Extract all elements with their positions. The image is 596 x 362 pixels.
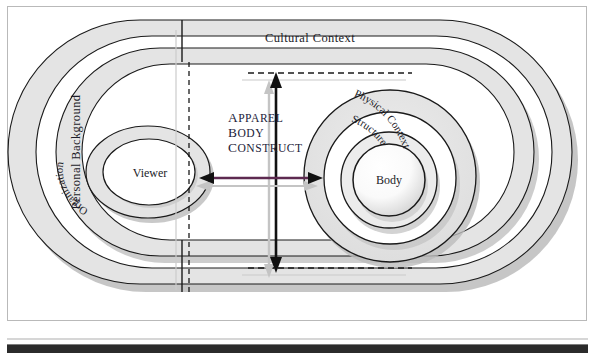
abc-line-1: APPAREL	[228, 110, 283, 125]
abc-line-2: BODY	[228, 125, 264, 140]
abc-line-3: CONSTRUCT	[228, 140, 303, 155]
label-cultural-context: Cultural Context	[265, 31, 355, 45]
apparel-body-construct-diagram: Cultural Context Personal Background Org…	[0, 0, 596, 362]
bottom-rule	[7, 344, 588, 353]
label-body: Body	[376, 173, 402, 187]
figure-stage: Cultural Context Personal Background Org…	[0, 0, 596, 362]
bottom-rule-thin	[7, 338, 588, 340]
label-viewer: Viewer	[133, 166, 168, 180]
